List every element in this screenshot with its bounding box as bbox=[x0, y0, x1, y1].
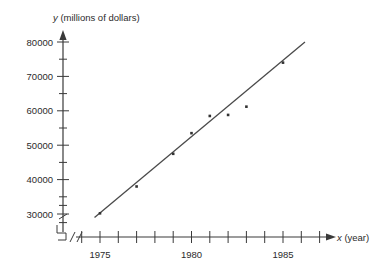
data-point bbox=[172, 153, 175, 156]
axis-break-slash-one-icon bbox=[70, 232, 75, 242]
x-tick-label-1985: 1985 bbox=[272, 249, 293, 260]
chart-canvas: y (millions of dollars) x (year) 3000040… bbox=[0, 0, 375, 270]
data-point bbox=[227, 114, 230, 117]
y-axis: 300004000050000600007000080000 bbox=[27, 30, 69, 232]
y-axis-title: y (millions of dollars) bbox=[52, 12, 140, 23]
y-tick-label-40000: 40000 bbox=[27, 174, 53, 185]
y-tick-label-50000: 50000 bbox=[27, 140, 53, 151]
x-axis-title: x (year) bbox=[336, 232, 369, 243]
data-point-group bbox=[99, 61, 285, 214]
y-axis-unit: (millions of dollars) bbox=[58, 12, 140, 23]
x-axis: 197519801985 bbox=[76, 231, 336, 260]
axis-break-mark bbox=[57, 214, 82, 242]
x-axis-unit: (year) bbox=[342, 232, 369, 243]
y-axis-tick-labels: 300004000050000600007000080000 bbox=[27, 37, 53, 220]
y-axis-arrow-icon bbox=[59, 30, 66, 40]
y-tick-label-80000: 80000 bbox=[27, 37, 53, 48]
y-tick-label-60000: 60000 bbox=[27, 105, 53, 116]
axis-break-bracket-icon bbox=[57, 225, 66, 240]
y-tick-label-70000: 70000 bbox=[27, 71, 53, 82]
y-tick-label-30000: 30000 bbox=[27, 209, 53, 220]
data-point bbox=[245, 105, 248, 108]
x-axis-arrow-icon bbox=[326, 233, 336, 240]
data-point bbox=[135, 185, 138, 188]
data-point bbox=[190, 132, 193, 135]
trend-line bbox=[95, 42, 305, 217]
x-tick-label-1980: 1980 bbox=[181, 249, 202, 260]
data-point bbox=[99, 212, 102, 215]
scatter-chart: y (millions of dollars) x (year) 3000040… bbox=[0, 0, 375, 270]
x-tick-label-1975: 1975 bbox=[89, 249, 110, 260]
data-point bbox=[209, 115, 212, 118]
data-point bbox=[282, 61, 285, 64]
x-axis-tick-labels: 197519801985 bbox=[89, 249, 293, 260]
